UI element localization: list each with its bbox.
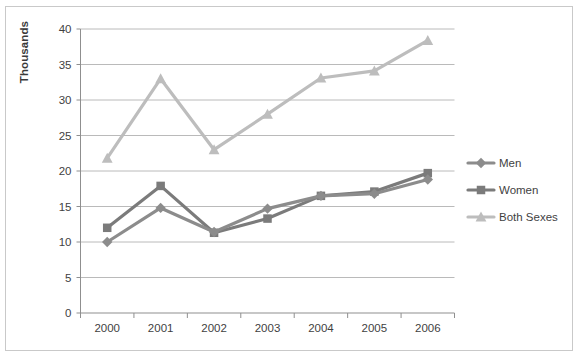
x-axis-ticks: 2000200120022003200420052006 [81,313,455,334]
legend-item-both-sexes[interactable]: Both Sexes [468,211,558,223]
data-point-marker [263,214,272,223]
data-point-marker [155,73,166,83]
legend-label: Both Sexes [499,211,558,223]
y-axis-tick-label: 20 [59,165,72,177]
y-axis-tick-label: 35 [59,59,72,71]
y-axis-tick-label: 10 [59,236,72,248]
x-axis-tick-label: 2003 [255,322,281,334]
y-axis-ticks: 0510152025303540 [59,23,81,319]
series-line [107,40,428,158]
chart-container: Thousands 0510152025303540 2000200120022… [0,0,583,360]
x-axis-tick-label: 2001 [148,322,174,334]
y-axis-tick-label: 5 [65,272,71,284]
data-point-marker [422,35,433,45]
series-both-sexes [102,35,433,163]
legend-item-men[interactable]: Men [468,157,521,169]
data-point-marker [262,203,272,213]
y-axis-tick-label: 40 [59,23,72,35]
legend-label: Women [499,184,538,196]
series-women [103,169,432,237]
gridlines [81,29,455,278]
x-axis-tick-label: 2005 [362,322,388,334]
x-axis-tick-label: 2002 [201,322,227,334]
data-point-marker [477,186,486,195]
y-axis-tick-label: 15 [59,201,72,213]
data-point-marker [103,224,112,233]
data-point-marker [476,158,486,168]
x-axis-tick-label: 2000 [94,322,120,334]
series-line [107,173,428,233]
y-axis-tick-label: 25 [59,130,72,142]
series-men [102,174,433,247]
data-point-marker [156,182,165,191]
chart-legend: MenWomenBoth Sexes [468,157,558,223]
x-axis-tick-label: 2006 [415,322,441,334]
y-axis-tick-label: 30 [59,94,72,106]
x-axis-tick-label: 2004 [308,322,334,334]
legend-item-women[interactable]: Women [468,184,538,196]
y-axis-tick-label: 0 [65,307,71,319]
legend-label: Men [499,157,521,169]
data-series [102,35,433,247]
chart-plot: 0510152025303540 20002001200220032004200… [0,0,583,360]
